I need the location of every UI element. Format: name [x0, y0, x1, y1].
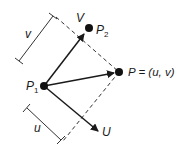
label-u-vector: U — [102, 125, 111, 139]
v-measure-bracket — [15, 13, 57, 64]
label-p1: P1 — [26, 79, 39, 95]
label-p-point: P = (u, v) — [128, 66, 175, 78]
label-v-measure: v — [25, 27, 32, 41]
u-measure-bracket — [23, 104, 65, 144]
uv-coordinate-diagram: V P2 P1 P = (u, v) U v u — [0, 0, 184, 163]
point-p1 — [40, 82, 48, 90]
point-p2 — [85, 24, 93, 32]
label-v-vector: V — [76, 11, 85, 25]
label-u-measure: u — [34, 121, 41, 135]
u-vector-arrow — [44, 86, 98, 131]
v-vector-arrow — [44, 34, 84, 86]
point-p — [115, 68, 123, 76]
p1-to-p-arrow — [44, 73, 114, 86]
label-p2: P2 — [96, 23, 109, 39]
